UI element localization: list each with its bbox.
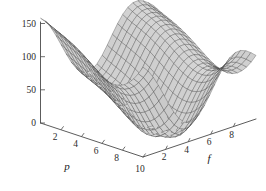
p-tick-label-4: 4 (73, 139, 78, 149)
f-tick-label-8: 8 (229, 130, 234, 140)
p-tick-label-6: 6 (94, 146, 99, 156)
f-tick-label-2: 2 (162, 152, 167, 162)
f-axis-label: f (207, 152, 212, 164)
plot-canvas: 150 100 50 0 2 4 6 8 10 2 4 6 8 p (0, 0, 266, 191)
f-tick-label-4: 4 (184, 145, 189, 155)
z-tick-label-100: 100 (22, 52, 37, 62)
p-tick-label-8: 8 (114, 153, 119, 163)
p-tick-4 (82, 133, 85, 137)
z-tick-label-150: 150 (22, 19, 37, 29)
p-tick-2 (61, 126, 64, 130)
p-tick-label-2: 2 (53, 132, 58, 142)
surface-mesh (41, 1, 257, 138)
z-axis-ticks (41, 24, 46, 124)
z-tick-label-50: 50 (27, 85, 37, 95)
surface-plot-figure: 150 100 50 0 2 4 6 8 10 2 4 6 8 p (0, 0, 266, 191)
p-tick-8 (123, 147, 126, 151)
p-tick-6 (102, 140, 105, 144)
p-tick-label-10: 10 (135, 164, 145, 174)
f-tick-label-6: 6 (207, 137, 212, 147)
p-axis-label: p (63, 160, 70, 172)
z-tick-label-0: 0 (31, 118, 36, 128)
